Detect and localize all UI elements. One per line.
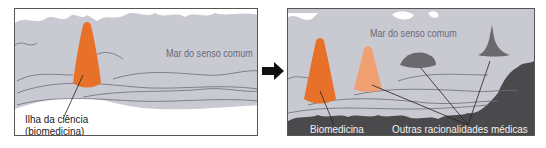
panel-before: Mar do senso comum Ilha da ciência (biom… xyxy=(14,8,258,136)
sea-label: Mar do senso comum xyxy=(370,27,457,39)
sea-label: Mar do senso comum xyxy=(166,47,253,59)
panel-after: Mar do senso comum Biomedicina Outras ra… xyxy=(287,8,535,136)
right-arrow-icon xyxy=(262,62,284,80)
other-rationalities-label: Outras racionalidades médicas xyxy=(392,123,528,135)
island-caption-line2: (biomedicina) xyxy=(25,125,84,136)
biomedicine-label: Biomedicina xyxy=(310,123,364,135)
